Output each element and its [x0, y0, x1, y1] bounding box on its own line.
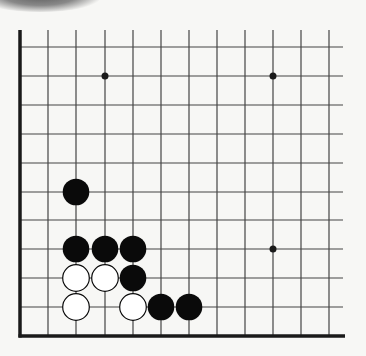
white-stone [63, 265, 90, 292]
black-stone [92, 236, 119, 263]
black-stone [176, 294, 203, 321]
white-stone [63, 294, 90, 321]
star-point-icon [102, 73, 109, 80]
white-stone [92, 265, 119, 292]
star-point-icon [270, 73, 277, 80]
black-stone [63, 236, 90, 263]
star-point-icon [270, 246, 277, 253]
black-stone [120, 236, 147, 263]
white-stone [120, 294, 147, 321]
go-board [0, 0, 366, 356]
black-stone [148, 294, 175, 321]
black-stone [120, 265, 147, 292]
black-stone [63, 179, 90, 206]
